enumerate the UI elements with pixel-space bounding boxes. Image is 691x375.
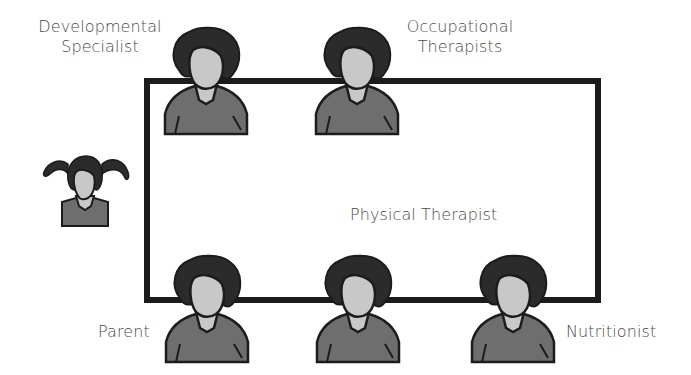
label-parent: Parent (98, 322, 158, 342)
label-occupational-therapists: Occupational Therapists (390, 17, 530, 57)
person-nutritionist-icon (470, 252, 556, 364)
label-nutritionist: Nutritionist (566, 322, 666, 342)
person-child-icon (38, 150, 132, 228)
label-developmental-specialist: Developmental Specialist (30, 17, 170, 57)
label-physical-therapist: Physical Therapist (350, 205, 510, 225)
person-physical-therapist-icon (315, 252, 401, 364)
person-developmental-specialist-icon (163, 24, 249, 136)
person-parent-icon (164, 252, 250, 364)
person-occupational-therapists-icon (314, 24, 400, 136)
